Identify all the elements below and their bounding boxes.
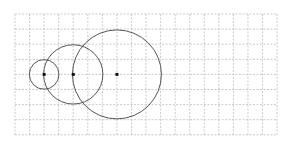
center-1-point bbox=[43, 73, 46, 76]
center-2-point bbox=[72, 73, 75, 76]
center-3-point bbox=[115, 73, 118, 76]
dashed-grid bbox=[15, 14, 277, 135]
grid-diagram bbox=[0, 0, 287, 150]
